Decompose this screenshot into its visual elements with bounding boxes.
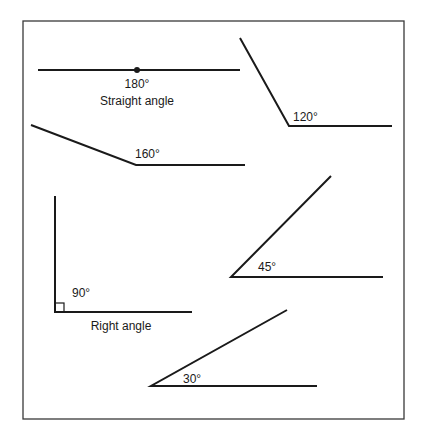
angle-180-label: 180°: [125, 77, 150, 91]
angle-45-rays: [231, 176, 383, 277]
angle-30-acute: 30°: [151, 310, 317, 386]
angle-120-label: 120°: [293, 110, 318, 124]
vertex-dot: [134, 67, 140, 73]
straight-angle-caption: Straight angle: [100, 94, 174, 108]
angle-30-rays: [151, 310, 317, 386]
angle-120-obtuse: 120°: [240, 38, 392, 126]
angle-45-acute: 45°: [231, 176, 383, 277]
angle-160-obtuse: 160°: [31, 125, 245, 165]
angle-90-right: 90° Right angle: [55, 196, 192, 333]
angle-45-label: 45°: [258, 260, 276, 274]
angle-30-label: 30°: [183, 372, 201, 386]
angle-180-straight: 180° Straight angle: [38, 67, 240, 108]
figure-frame: [23, 21, 404, 419]
angles-figure: 180° Straight angle 120° 160° 90° Right …: [0, 0, 426, 437]
right-angle-caption: Right angle: [91, 319, 152, 333]
angles-diagram: 180° Straight angle 120° 160° 90° Right …: [0, 0, 426, 437]
angle-160-label: 160°: [135, 147, 160, 161]
angle-90-label: 90°: [72, 286, 90, 300]
right-angle-square-marker: [55, 303, 64, 312]
